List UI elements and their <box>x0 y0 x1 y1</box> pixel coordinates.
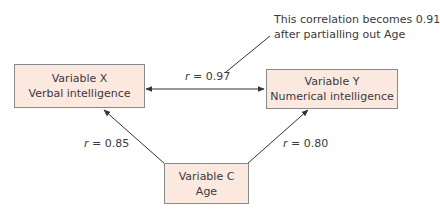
annotation-leader <box>226 36 270 72</box>
node-c-subtitle: Age <box>196 184 217 199</box>
node-x-title: Variable X <box>52 71 108 86</box>
annotation-line-2: after partialling out Age <box>274 27 440 42</box>
node-variable-c: Variable C Age <box>164 163 249 204</box>
node-y-subtitle: Numerical intelligence <box>270 89 393 104</box>
node-y-title: Variable Y <box>305 74 360 89</box>
node-variable-x: Variable X Verbal intelligence <box>14 64 145 108</box>
edge-cy-label: r = 0.80 <box>283 137 328 150</box>
node-variable-y: Variable Y Numerical intelligence <box>266 69 398 109</box>
edge-xy-label: r = 0.97 <box>185 70 230 83</box>
node-x-subtitle: Verbal intelligence <box>28 86 130 101</box>
annotation-line-1: This correlation becomes 0.91 <box>274 12 440 27</box>
partial-correlation-annotation: This correlation becomes 0.91 after part… <box>274 12 440 42</box>
node-c-title: Variable C <box>179 169 235 184</box>
edge-cx-label: r = 0.85 <box>84 137 129 150</box>
